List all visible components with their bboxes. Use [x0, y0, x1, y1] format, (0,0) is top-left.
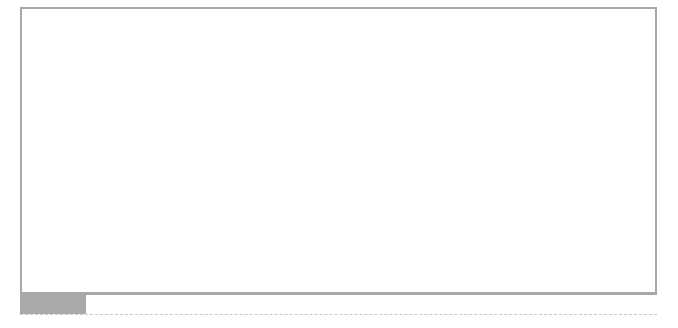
figure-caption-bar — [20, 293, 657, 315]
world-location-map — [0, 0, 678, 328]
figure-number — [20, 293, 86, 314]
